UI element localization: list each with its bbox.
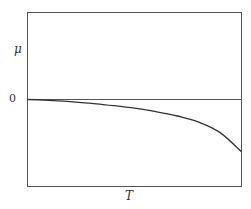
x-axis-label: T — [125, 189, 133, 203]
y-tick-zero: 0 — [9, 92, 16, 105]
chart-plot-area — [0, 0, 251, 209]
y-axis-label: μ — [14, 42, 22, 56]
mu-curve — [28, 100, 242, 152]
